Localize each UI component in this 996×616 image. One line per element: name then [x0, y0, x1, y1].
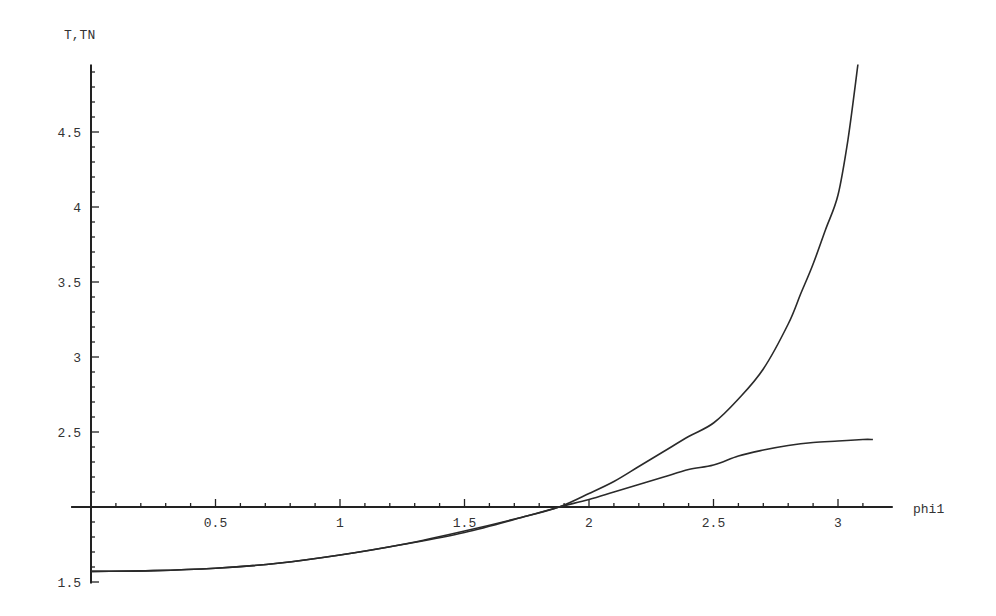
x-axis-title: phi1 — [913, 502, 944, 517]
x-tick-label: 3 — [834, 516, 842, 531]
y-tick-label: 4 — [73, 201, 81, 216]
y-axis-title: T,TN — [64, 28, 95, 43]
axes — [71, 65, 893, 584]
y-tick-label: 2.5 — [58, 426, 81, 441]
curves — [91, 65, 873, 572]
curve-tn — [91, 439, 873, 571]
chart: 0.511.522.531.52.533.544.5T,TNphi1 — [0, 0, 996, 616]
x-tick-label: 2.5 — [702, 516, 725, 531]
x-tick-label: 0.5 — [204, 516, 227, 531]
curve-t — [91, 65, 858, 572]
y-tick-label: 3.5 — [58, 276, 81, 291]
x-tick-label: 2 — [585, 516, 593, 531]
y-tick-label: 4.5 — [58, 126, 81, 141]
y-tick-label: 3 — [73, 351, 81, 366]
x-tick-label: 1 — [336, 516, 344, 531]
y-tick-label: 1.5 — [58, 576, 81, 591]
x-tick-label: 1.5 — [453, 516, 476, 531]
